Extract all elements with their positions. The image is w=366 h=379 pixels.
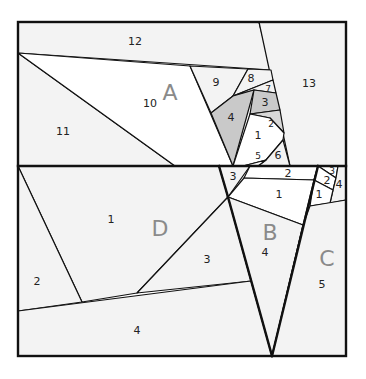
section-letter-d: D <box>152 218 169 240</box>
label-d1: 1 <box>108 214 115 225</box>
label-a7: 7 <box>265 85 271 94</box>
label-a3: 3 <box>262 97 269 108</box>
label-b1: 1 <box>276 189 283 200</box>
section-letter-a: A <box>162 82 177 104</box>
label-a13: 13 <box>302 78 316 89</box>
label-b2: 2 <box>285 168 292 179</box>
label-c2: 2 <box>324 175 331 186</box>
piecing-diagram <box>0 0 366 379</box>
label-d3: 3 <box>204 254 211 265</box>
section-a <box>18 22 346 166</box>
label-a9: 9 <box>213 77 220 88</box>
label-a11: 11 <box>56 126 70 137</box>
label-d2: 2 <box>34 276 41 287</box>
label-a1: 1 <box>255 130 262 141</box>
label-a6: 6 <box>275 150 282 161</box>
label-c4: 4 <box>336 179 343 190</box>
section-letter-c: C <box>319 248 334 270</box>
label-d4: 4 <box>134 325 141 336</box>
label-a8: 8 <box>248 73 255 84</box>
label-a5: 5 <box>255 152 261 161</box>
label-a2: 2 <box>268 120 274 129</box>
label-c5: 5 <box>319 279 326 290</box>
label-a10: 10 <box>143 98 157 109</box>
section-letter-b: B <box>262 222 277 244</box>
label-c1: 1 <box>316 189 323 200</box>
label-a12: 12 <box>128 36 142 47</box>
label-b4: 4 <box>262 247 269 258</box>
label-a4: 4 <box>228 112 235 123</box>
label-b3: 3 <box>230 171 237 182</box>
